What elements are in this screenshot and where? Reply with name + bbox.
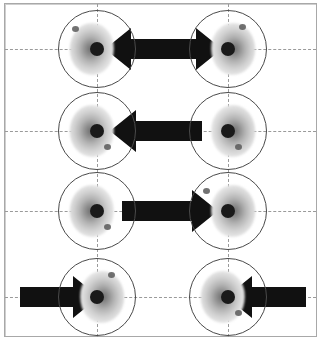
particle-r4-left [58,258,136,336]
particle-r4-right [189,258,267,336]
particle-speck [235,310,242,316]
particle-core [221,290,235,304]
row-4-two-inward [0,0,330,342]
figure-canvas [0,0,330,342]
diagram-plot-area [0,0,330,342]
particle-core [90,290,104,304]
particle-speck [108,272,115,278]
